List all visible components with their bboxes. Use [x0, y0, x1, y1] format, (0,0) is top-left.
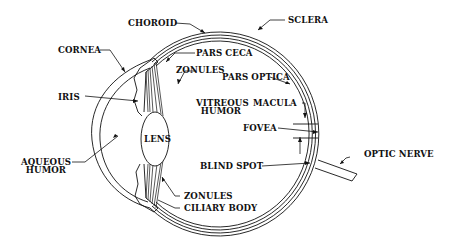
eye-diagram: CHOROID SCLERA CORNEA PARS CECA ZONULES … [0, 0, 453, 252]
label-cornea: CORNEA [58, 46, 101, 54]
label-choroid: CHOROID [128, 19, 177, 27]
label-lens: LENS [144, 135, 171, 143]
optic-nerve-shape [315, 160, 357, 181]
label-aqueous-humor: AQUEOUS HUMOR [20, 158, 72, 174]
label-zonules-bottom: ZONULES [184, 192, 233, 200]
label-pars-ceca: PARS CECA [196, 49, 253, 57]
label-vitreous-line2: HUMOR [196, 107, 246, 115]
label-fovea: FOVEA [243, 124, 277, 132]
label-ciliary-body: CILIARY BODY [184, 204, 257, 212]
label-blind-spot: BLIND SPOT [200, 162, 263, 170]
label-optic-nerve: OPTIC NERVE [364, 150, 434, 158]
eye-drawing [0, 0, 453, 252]
label-pars-optica: PARS OPTICA [222, 73, 290, 81]
label-iris: IRIS [58, 93, 80, 101]
label-vitreous-humor: VITREOUS HUMOR [196, 99, 246, 115]
label-macula: MACULA [253, 99, 297, 107]
label-sclera: SCLERA [288, 16, 328, 24]
label-zonules-top: ZONULES [176, 66, 225, 74]
label-aqueous-line2: HUMOR [20, 166, 72, 174]
iris-shape [134, 68, 142, 116]
